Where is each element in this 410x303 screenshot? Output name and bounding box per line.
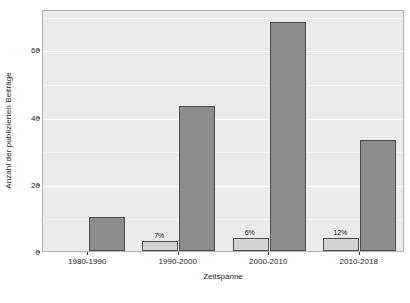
gridline-vertical — [134, 11, 135, 12]
bar-label-2000-2010: 6% — [245, 229, 255, 236]
bar-dark-2000-2010 — [270, 22, 306, 251]
bar-dark-1990-2000 — [179, 106, 215, 251]
bar-dark-2010-2018 — [360, 140, 396, 251]
gridline-major — [43, 119, 403, 120]
x-tick-label-1990-2000: 1990-2000 — [159, 257, 197, 266]
gridline-minor — [43, 152, 403, 153]
x-tick-mark — [268, 252, 269, 255]
bar-light-1990-2000 — [142, 241, 178, 251]
gridline-major — [43, 51, 403, 52]
x-tick-label-1980-1990: 1980-1990 — [68, 257, 106, 266]
bar-light-2010-2018 — [323, 238, 359, 251]
x-tick-mark — [87, 252, 88, 255]
x-tick-mark — [178, 252, 179, 255]
y-tick-mark — [37, 252, 40, 253]
x-tick-label-2000-2010: 2000-2010 — [249, 257, 287, 266]
bar-dark-1980-1990 — [89, 217, 125, 251]
bar-chart: Anzahl der publizierten Beiträge 0204060… — [0, 0, 410, 303]
bar-label-1990-2000: 7% — [154, 232, 164, 239]
gridline-minor — [43, 18, 403, 19]
y-tick-mark — [37, 184, 40, 185]
y-axis-tick-labels: 0204060 — [14, 0, 40, 303]
x-tick-label-2010-2018: 2010-2018 — [340, 257, 378, 266]
bar-light-2000-2010 — [233, 238, 269, 251]
y-axis-title-text: Anzahl der publizierten Beiträge — [4, 72, 13, 189]
x-axis-title: Zeitspanne — [42, 272, 404, 281]
x-tick-mark — [359, 252, 360, 255]
y-tick-mark — [37, 117, 40, 118]
y-tick-mark — [37, 50, 40, 51]
gridline-major — [43, 186, 403, 187]
gridline-vertical — [315, 11, 316, 12]
plot-panel — [42, 10, 404, 252]
gridline-minor — [43, 85, 403, 86]
gridline-vertical — [224, 11, 225, 12]
bar-label-2010-2018: 12% — [333, 229, 347, 236]
